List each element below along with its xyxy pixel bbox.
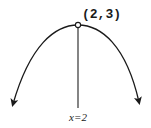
parabola-diagram: (2,3) x=2	[0, 0, 151, 128]
vertex-point	[75, 22, 80, 27]
vertex-label: (2,3)	[82, 7, 121, 22]
axis-of-symmetry-label: x=2	[68, 111, 87, 123]
parabola-left-branch	[13, 25, 78, 104]
parabola-right-branch	[78, 25, 139, 102]
